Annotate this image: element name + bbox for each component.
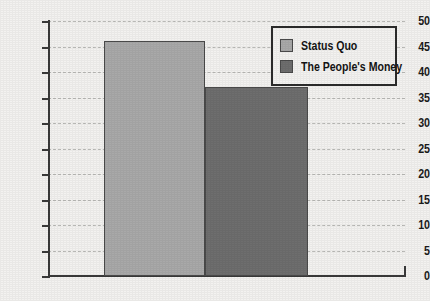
y-tick-label: 50 — [402, 14, 430, 27]
legend-item-the-peoples-money[interactable]: The People's Money — [280, 56, 387, 77]
bar-chart: 50454035302520151050 Status Quo The Peop… — [0, 0, 430, 301]
legend-label-the-peoples-money: The People's Money — [301, 60, 402, 74]
y-tick-label: 25 — [402, 142, 430, 155]
legend-item-status-quo[interactable]: Status Quo — [280, 35, 387, 56]
y-tick-label: 45 — [402, 40, 430, 53]
legend-label-status-quo: Status Quo — [301, 39, 357, 53]
y-tick-label: 30 — [402, 116, 430, 129]
y-tick-label: 40 — [402, 65, 430, 78]
legend-swatch-status-quo — [280, 39, 293, 52]
y-tick-label: 0 — [402, 269, 430, 282]
y-axis-line — [48, 20, 50, 276]
y-tick-label: 10 — [402, 218, 430, 231]
legend-swatch-the-peoples-money — [280, 60, 293, 73]
y-tick-label: 20 — [402, 167, 430, 180]
legend: Status Quo The People's Money — [271, 26, 397, 86]
bar-the-people-s-money[interactable] — [205, 87, 308, 276]
x-axis-end-tick — [404, 266, 406, 276]
y-tick-label: 15 — [402, 193, 430, 206]
gridline — [48, 21, 405, 22]
y-tick-label: 35 — [402, 91, 430, 104]
y-tick-label: 5 — [402, 244, 430, 257]
bar-status-quo[interactable] — [104, 41, 205, 276]
